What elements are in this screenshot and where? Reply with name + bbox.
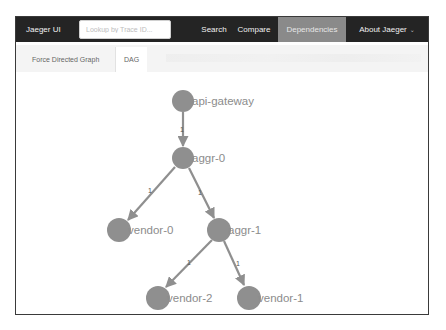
node-label: vendor-2	[167, 292, 212, 304]
nav-dependencies-label: Dependencies	[286, 25, 337, 34]
node-label: vendor-1	[258, 292, 303, 304]
node-vendor-2[interactable]: vendor-2	[146, 286, 212, 310]
node-aggr-0[interactable]: aggr-0	[172, 147, 225, 169]
edge-label: 1	[148, 187, 152, 194]
node-api-gateway[interactable]: api-gateway	[172, 90, 254, 112]
node-label: vendor-0	[128, 224, 173, 236]
nav-compare[interactable]: Compare	[229, 17, 279, 42]
graph-edges: 1 1 1 1 1	[128, 112, 244, 287]
trace-id-search-input[interactable]	[79, 20, 171, 39]
nav-search-label: Search	[201, 25, 226, 34]
node-vendor-1[interactable]: vendor-1	[237, 286, 303, 310]
edge-label: 1	[236, 260, 240, 267]
node-aggr-1[interactable]: aggr-1	[207, 218, 261, 242]
nav-about-jaeger[interactable]: About Jaeger⌄	[352, 17, 422, 42]
node-label: api-gateway	[192, 95, 254, 107]
jaeger-window: Jaeger UI Search Compare Dependencies Ab…	[15, 16, 429, 315]
edge-label: 1	[180, 126, 184, 133]
brand-logo[interactable]: Jaeger UI	[26, 17, 61, 42]
nav-dependencies[interactable]: Dependencies	[278, 17, 346, 42]
edge-aggr-1-vendor-1[interactable]	[224, 241, 244, 285]
node-label: aggr-1	[228, 224, 261, 236]
edge-label: 1	[198, 189, 202, 196]
dag-graph: 1 1 1 1 1 api-gateway aggr-0	[16, 42, 429, 315]
node-vendor-0[interactable]: vendor-0	[107, 218, 173, 242]
nav-about-label: About Jaeger	[359, 25, 407, 34]
nav-compare-label: Compare	[238, 25, 271, 34]
dependencies-content: Force Directed Graph DAG 1 1 1 1	[16, 42, 428, 314]
top-navbar: Jaeger UI Search Compare Dependencies Ab…	[16, 17, 428, 42]
chevron-down-icon: ⌄	[410, 27, 415, 33]
edge-label: 1	[187, 259, 191, 266]
node-label: aggr-0	[192, 152, 225, 164]
